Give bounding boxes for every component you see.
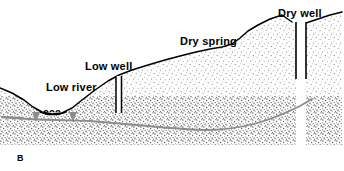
river-ripple-marks bbox=[44, 111, 60, 112]
label-low-well: Low well bbox=[85, 60, 132, 72]
cross-section-drawing: Low river Low well Dry spring Dry well B bbox=[0, 0, 344, 171]
label-dry-well: Dry well bbox=[278, 7, 322, 19]
dry-well-bore bbox=[296, 22, 306, 79]
dry-well-shaft bbox=[296, 22, 306, 79]
low-well-bore bbox=[116, 76, 122, 113]
groundwater-cross-section-figure: Low river Low well Dry spring Dry well B bbox=[0, 0, 344, 171]
label-dry-spring: Dry spring bbox=[180, 35, 237, 47]
water-table-curve-left-stub bbox=[2, 117, 22, 118]
panel-letter: B bbox=[17, 153, 24, 163]
low-well-shaft bbox=[116, 76, 122, 113]
label-low-river: Low river bbox=[46, 81, 97, 93]
